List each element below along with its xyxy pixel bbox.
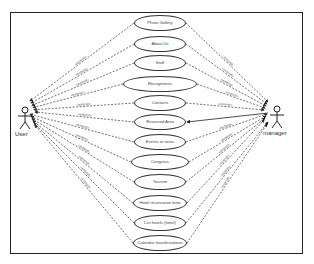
use-case-calendar-manifestations: Calendar manifestations [133,235,187,251]
use-case-reserved-area: Reserved Area [134,114,186,130]
svg-text:«extend»: «extend» [74,67,88,77]
use-case-congress: Congress [131,154,189,170]
svg-text:«extend»: «extend» [77,102,91,107]
svg-text:«extend»: «extend» [220,78,234,88]
use-case-hotel-reservation-form: Hotel reservation form [133,195,187,211]
svg-text:«extend»: «extend» [219,132,233,143]
svg-text:«extend»: «extend» [219,122,234,130]
actor-user-label: User [15,131,28,137]
svg-text:«extend»: «extend» [70,90,85,97]
svg-text:«extend»: «extend» [78,112,92,117]
svg-text:«extend»: «extend» [80,176,92,189]
svg-text:«extend»: «extend» [222,55,235,68]
use-case-events-or-news: Events or news [134,134,186,150]
svg-text:«extend»: «extend» [75,78,90,87]
actor-manager-label: manager [263,130,287,136]
svg-text:«extend»: «extend» [74,55,88,67]
svg-text:«extend»: «extend» [77,143,91,154]
svg-text:«extend»: «extend» [78,154,91,166]
user-actor-icon [18,107,32,129]
svg-text:«extend»: «extend» [224,90,239,98]
svg-text:«extend»: «extend» [218,142,231,154]
use-case-list-hotels-hotel: List hotels (hotel) [134,215,186,231]
use-case-tourism: Tourism [134,174,186,190]
manager-actor-icon [270,106,284,128]
svg-text:«extend»: «extend» [218,102,232,107]
use-case-contacts: Contacts [134,95,186,111]
use-case-about-us: About Us [134,36,186,52]
svg-text:«extend»: «extend» [75,122,90,129]
use-case-photo-gallery: Photo Gallery [134,15,186,31]
svg-text:«extend»: «extend» [221,67,235,79]
use-case-recognitions: Recognitions [123,76,197,92]
use-case-staff: Staff [134,55,186,71]
svg-text:«extend»: «extend» [218,154,230,167]
